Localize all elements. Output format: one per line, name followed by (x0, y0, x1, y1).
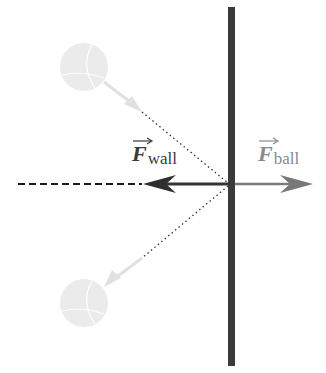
outgoing-trajectory (142, 186, 228, 258)
force-ball-arrow (231, 175, 313, 193)
vector-arrow-icon (132, 137, 154, 145)
outgoing-motion-arrow (104, 258, 142, 287)
vector-arrow-icon (258, 137, 280, 145)
force-subscript: ball (274, 149, 300, 168)
incoming-motion-arrow (104, 82, 142, 112)
force-ball-label: Fball (258, 141, 299, 167)
force-wall-arrow (143, 175, 231, 193)
force-wall-label: Fwall (132, 141, 177, 167)
force-subscript: wall (148, 149, 177, 168)
outgoing-ball (60, 279, 108, 327)
wall (228, 7, 235, 366)
ball-wall-force-diagram (0, 0, 326, 373)
incoming-ball (60, 43, 108, 91)
